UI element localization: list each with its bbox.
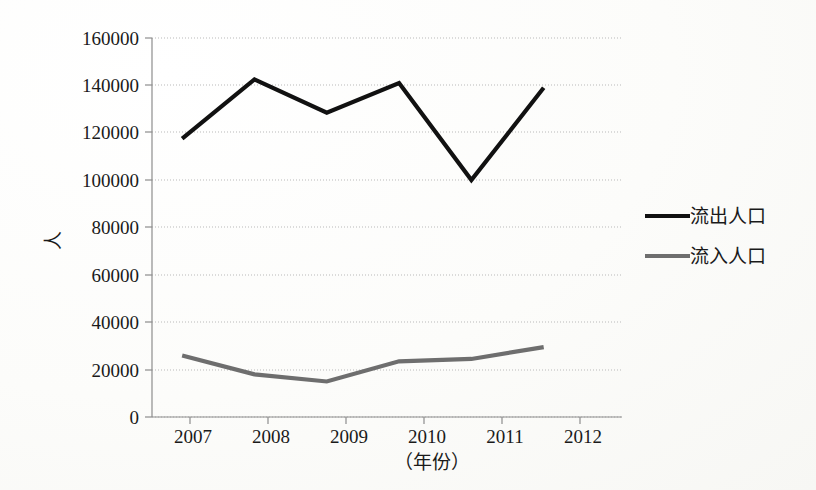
y-tick-label-140000: 140000 (82, 75, 139, 96)
y-tick-label-160000: 160000 (82, 28, 139, 49)
y-tick-label-120000: 120000 (82, 122, 139, 143)
line-chart-figure: 160000 140000 120000 100000 80000 60000 … (0, 0, 816, 490)
y-tick-labels: 160000 140000 120000 100000 80000 60000 … (82, 28, 139, 428)
y-axis (145, 38, 152, 417)
x-axis-title: （年份） (394, 452, 470, 473)
y-tick-label-80000: 80000 (92, 217, 140, 238)
y-tick-label-60000: 60000 (92, 265, 140, 286)
y-tick-label-100000: 100000 (82, 170, 139, 191)
series-line-outflow (182, 79, 544, 180)
x-tick-labels: 2007 2008 2009 2010 2011 2012 (174, 426, 602, 447)
x-tick-label-2012: 2012 (564, 426, 602, 447)
y-tick-label-40000: 40000 (92, 312, 140, 333)
x-tick-label-2009: 2009 (330, 426, 368, 447)
y-tick-label-20000: 20000 (92, 360, 140, 381)
y-axis-title: 人 (43, 231, 64, 250)
legend-label-inflow: 流入人口 (690, 246, 766, 267)
y-tick-label-0: 0 (130, 407, 140, 428)
legend-item-outflow[interactable]: 流出人口 (645, 206, 766, 227)
x-tick-label-2008: 2008 (252, 426, 290, 447)
series-line-inflow (182, 347, 544, 381)
chart-canvas: 160000 140000 120000 100000 80000 60000 … (0, 0, 816, 490)
chart-legend: 流出人口 流入人口 (645, 206, 766, 267)
x-axis (152, 417, 622, 424)
gridlines-horizontal (152, 38, 622, 417)
legend-item-inflow[interactable]: 流入人口 (645, 246, 766, 267)
x-tick-label-2010: 2010 (408, 426, 446, 447)
legend-label-outflow: 流出人口 (690, 206, 766, 227)
x-tick-label-2011: 2011 (486, 426, 523, 447)
x-tick-label-2007: 2007 (174, 426, 212, 447)
